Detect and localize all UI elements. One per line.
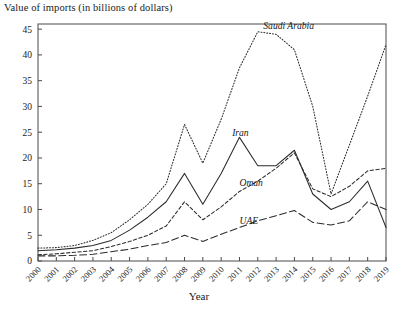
y-tick-label: 35 xyxy=(23,76,33,86)
x-tick-label: 2011 xyxy=(225,264,244,283)
x-tick-label: 2015 xyxy=(298,264,317,283)
series-line-oman xyxy=(38,153,386,255)
x-tick-label: 2016 xyxy=(317,264,337,284)
series-label-saudi-arabia: Saudi Arabia xyxy=(263,20,314,31)
y-tick-label: 10 xyxy=(23,205,33,215)
x-tick-label: 2013 xyxy=(262,264,281,283)
series-label-oman: Oman xyxy=(239,177,263,188)
x-tick-label: 2009 xyxy=(189,264,208,283)
series-label-uae: UAE xyxy=(239,215,258,226)
x-axis-title: Year xyxy=(0,290,398,302)
x-tick-label: 2008 xyxy=(170,264,189,283)
y-tick-label: 30 xyxy=(23,102,33,112)
x-tick-label: 2017 xyxy=(335,264,355,284)
y-tick-label: 25 xyxy=(23,128,33,138)
x-tick-label: 2012 xyxy=(243,264,262,283)
plot-frame xyxy=(38,24,386,261)
y-axis-ticks: 051015202530354045 xyxy=(23,25,43,267)
series-line-uae xyxy=(38,202,386,256)
x-tick-label: 2004 xyxy=(97,264,117,284)
x-tick-label: 2018 xyxy=(353,264,372,283)
y-tick-label: 0 xyxy=(27,256,32,266)
series-line-iran xyxy=(38,137,386,250)
x-tick-label: 2000 xyxy=(24,264,43,283)
series-labels-group: Saudi ArabiaIranOmanUAE xyxy=(231,20,314,226)
x-tick-label: 2006 xyxy=(134,264,154,284)
series-line-saudi-arabia xyxy=(38,32,386,248)
x-tick-label: 2014 xyxy=(280,264,300,284)
y-tick-label: 20 xyxy=(23,153,33,163)
chart-canvas: 051015202530354045 200020012002200320042… xyxy=(0,0,398,312)
y-tick-label: 5 xyxy=(27,231,32,241)
y-tick-label: 45 xyxy=(23,25,33,35)
x-tick-label: 2005 xyxy=(115,264,134,283)
x-tick-label: 2019 xyxy=(372,264,391,283)
x-tick-label: 2001 xyxy=(42,264,61,283)
y-tick-label: 40 xyxy=(23,50,33,60)
imports-line-chart: Value of imports (in billions of dollars… xyxy=(0,0,398,312)
data-series-group xyxy=(38,32,386,256)
x-tick-label: 2010 xyxy=(207,264,226,283)
y-tick-label: 15 xyxy=(23,179,33,189)
series-label-iran: Iran xyxy=(231,127,249,138)
x-tick-label: 2007 xyxy=(152,264,172,284)
x-tick-label: 2002 xyxy=(60,264,79,283)
x-tick-label: 2003 xyxy=(79,264,98,283)
